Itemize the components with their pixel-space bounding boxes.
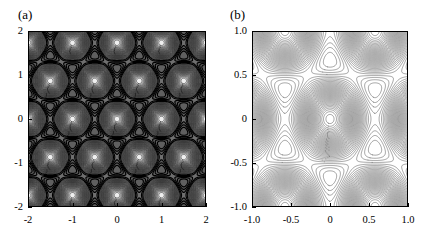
x-tick bbox=[330, 203, 331, 207]
y-tick bbox=[252, 119, 256, 120]
x-tick-label: 1 bbox=[159, 215, 164, 226]
y-tick-label: -2 bbox=[0, 202, 23, 213]
figure-container: (a) -2-1012-2-1012 (b) -1.0-0.500.51.0-1… bbox=[0, 0, 438, 242]
x-tick bbox=[162, 203, 163, 207]
panel-a-label: (a) bbox=[18, 8, 32, 21]
x-tick-label: -0.5 bbox=[283, 215, 300, 226]
y-tick-label: 2 bbox=[0, 26, 23, 37]
y-tick bbox=[28, 31, 32, 32]
x-tick bbox=[73, 203, 74, 207]
x-tick-label: 0 bbox=[114, 215, 119, 226]
x-tick-label: 0.5 bbox=[362, 215, 375, 226]
y-tick-label: 0.5 bbox=[222, 70, 247, 81]
y-tick bbox=[252, 31, 256, 32]
x-tick-label: 1.0 bbox=[401, 215, 414, 226]
panel-b-contour-svg bbox=[252, 31, 408, 207]
x-tick-label: 2 bbox=[203, 215, 208, 226]
x-tick bbox=[291, 203, 292, 207]
panel-a-contour-svg bbox=[28, 31, 206, 207]
x-tick-label: -2 bbox=[24, 215, 33, 226]
y-tick bbox=[28, 75, 32, 76]
contour-line-layer bbox=[252, 31, 408, 207]
y-tick-label: -0.5 bbox=[222, 158, 247, 169]
y-tick bbox=[252, 75, 256, 76]
y-tick-label: -1.0 bbox=[222, 202, 247, 213]
x-tick bbox=[408, 203, 409, 207]
y-tick-label: 1 bbox=[0, 70, 23, 81]
y-tick bbox=[252, 207, 256, 208]
x-tick bbox=[369, 203, 370, 207]
y-tick bbox=[28, 163, 32, 164]
x-tick bbox=[206, 203, 207, 207]
y-tick-label: 0 bbox=[0, 114, 23, 125]
y-tick-label: -1 bbox=[0, 158, 23, 169]
x-tick-label: -1.0 bbox=[244, 215, 261, 226]
y-tick bbox=[252, 163, 256, 164]
panel-b-label: (b) bbox=[230, 8, 245, 21]
y-tick-label: 1.0 bbox=[222, 26, 247, 37]
y-tick bbox=[28, 119, 32, 120]
x-tick-label: -1 bbox=[68, 215, 77, 226]
x-tick-label: 0 bbox=[327, 215, 332, 226]
panel-a-contour-plot bbox=[28, 31, 206, 207]
y-tick-label: 0 bbox=[222, 114, 247, 125]
panel-b-contour-plot bbox=[252, 31, 408, 207]
y-tick bbox=[28, 207, 32, 208]
x-tick bbox=[117, 203, 118, 207]
